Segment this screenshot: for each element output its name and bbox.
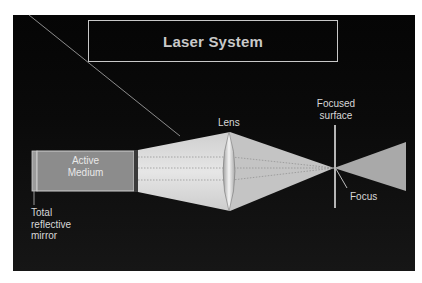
lens-label: Lens <box>218 117 240 129</box>
output-coupler <box>134 150 138 192</box>
title-box: Laser System <box>88 20 338 62</box>
focused-surface-label: Focused surface <box>311 98 361 121</box>
diagram-title: Laser System <box>163 33 263 50</box>
mirror-label: Total reflective mirror <box>31 207 71 242</box>
focus-label: Focus <box>350 191 377 203</box>
active-medium-label: Active Medium <box>38 155 133 179</box>
mirror-plate <box>32 151 37 191</box>
beam-expanding <box>138 132 230 211</box>
beam-converging <box>230 132 334 211</box>
